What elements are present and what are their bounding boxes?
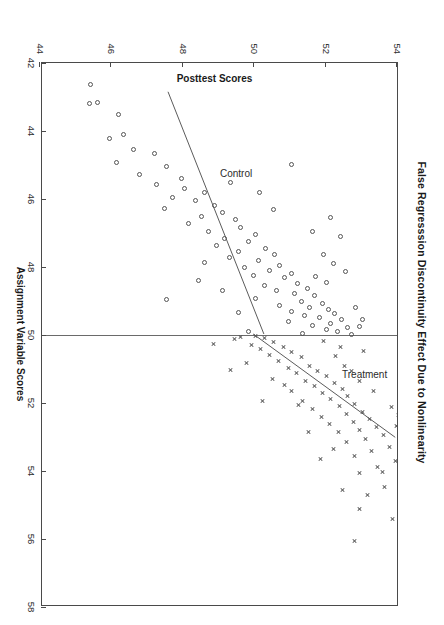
x-tick-label: 44 bbox=[26, 126, 37, 137]
y-tick-mark bbox=[396, 62, 397, 67]
x-tick-label: 56 bbox=[26, 534, 37, 545]
group-label-control: Control bbox=[220, 168, 252, 179]
y-tick-mark bbox=[110, 62, 111, 67]
x-tick-label: 54 bbox=[26, 466, 37, 477]
x-tick-mark bbox=[41, 335, 46, 336]
x-tick-mark bbox=[41, 403, 46, 404]
regression-fit-lines bbox=[42, 63, 397, 605]
y-tick-mark bbox=[39, 62, 40, 67]
y-tick-label: 48 bbox=[177, 43, 188, 54]
group-label-treatment: Treatment bbox=[342, 369, 387, 380]
x-tick-label: 52 bbox=[26, 398, 37, 409]
y-tick-label: 46 bbox=[106, 43, 117, 54]
x-axis-title: Assignment Variable Scores bbox=[15, 62, 26, 606]
y-tick-label: 54 bbox=[392, 43, 403, 54]
figure-canvas: False Regresssion Discontinuity Effect D… bbox=[0, 0, 444, 625]
y-tick-label: 44 bbox=[35, 43, 46, 54]
y-axis-title: Posttest Scores bbox=[135, 73, 295, 84]
x-tick-label: 58 bbox=[26, 602, 37, 613]
y-tick-label: 52 bbox=[320, 43, 331, 54]
y-tick-mark bbox=[253, 62, 254, 67]
x-tick-mark bbox=[41, 199, 46, 200]
figure-rotation-wrapper: False Regresssion Discontinuity Effect D… bbox=[0, 0, 444, 625]
plot-area: Control Treatment bbox=[42, 63, 397, 605]
x-tick-mark bbox=[41, 63, 46, 64]
x-tick-mark bbox=[41, 131, 46, 132]
x-tick-mark bbox=[41, 539, 46, 540]
x-tick-label: 42 bbox=[26, 58, 37, 69]
plot-frame: Control Treatment 424446485052545658 444… bbox=[41, 62, 398, 606]
x-tick-mark bbox=[41, 267, 46, 268]
x-tick-mark bbox=[41, 607, 46, 608]
y-tick-mark bbox=[325, 62, 326, 67]
x-tick-label: 50 bbox=[26, 330, 37, 341]
x-tick-label: 48 bbox=[26, 262, 37, 273]
y-tick-mark bbox=[182, 62, 183, 67]
y-tick-label: 50 bbox=[249, 43, 260, 54]
x-tick-label: 46 bbox=[26, 194, 37, 205]
fit-line-control bbox=[168, 92, 264, 334]
page-title: False Regresssion Discontinuity Effect D… bbox=[416, 0, 428, 625]
fit-line-treatment bbox=[253, 334, 395, 437]
x-tick-mark bbox=[41, 471, 46, 472]
